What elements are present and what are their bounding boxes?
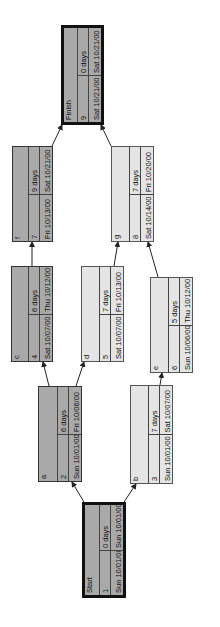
node-name: f <box>13 147 29 241</box>
node-name: Finish <box>64 28 78 122</box>
link-b-e <box>160 373 162 385</box>
node-finish-date: Thu 10/12/00 <box>40 267 52 314</box>
node-duration: 7 days <box>130 147 141 194</box>
node-id: 5 <box>100 314 111 361</box>
node-duration: 9 days <box>29 147 40 194</box>
node-id: 8 <box>130 194 141 241</box>
link-start-a <box>72 482 84 502</box>
node-finish-date: Sun 10/01/00 <box>111 505 123 550</box>
link-e-g <box>148 242 158 277</box>
node-id: 1 <box>100 550 111 595</box>
node-finish-date: Sat 10/21/00 <box>40 147 52 194</box>
node-id: 7 <box>29 194 40 241</box>
node-start-date: Sat 10/14/00 <box>141 194 153 241</box>
node-id: 6 <box>169 325 180 372</box>
node-d[interactable]: d 5 7 days Sat 10/07/00 Fri 10/13/00 <box>81 266 124 362</box>
node-id: 9 <box>78 75 89 122</box>
node-duration: 0 days <box>100 505 111 550</box>
node-b[interactable]: b 3 7 days Sun 10/01/00 Sat 10/07/00 <box>130 385 173 484</box>
node-a[interactable]: a 2 6 days Sun 10/01/00 Fri 10/06/00 <box>38 386 82 482</box>
node-duration: 7 days <box>100 267 111 314</box>
link-a-d <box>76 362 84 386</box>
node-name: g <box>112 147 130 241</box>
node-duration: 7 days <box>149 386 160 435</box>
node-finish[interactable]: Finish 9 0 days Sat 10/21/00 Sat 10/21/0… <box>61 25 104 125</box>
node-start-date: Sun 10/01/00 <box>111 550 123 595</box>
node-start-date: Sat 10/07/00 <box>111 314 123 361</box>
node-e[interactable]: e 6 5 days Sun 10/06/00 Thu 10/12/00 <box>150 277 193 373</box>
link-d-g <box>114 242 118 266</box>
node-name: b <box>131 386 149 483</box>
node-finish-date: Sat 10/21/00 <box>89 28 101 75</box>
node-name: a <box>39 387 58 481</box>
node-finish-date: Fri 10/06/00 <box>69 387 81 434</box>
node-g[interactable]: g 8 7 days Sat 10/14/00 Fri 10/20/00 <box>111 146 154 242</box>
link-g-finish <box>101 125 111 146</box>
node-name: c <box>12 267 29 361</box>
node-start-date: Sun 10/06/00 <box>180 325 192 372</box>
node-id: 3 <box>149 435 160 484</box>
node-finish-date: Sat 10/07/00 <box>160 386 172 435</box>
node-start-date: Sat 10/21/00 <box>89 75 101 122</box>
node-duration: 5 days <box>169 278 180 325</box>
node-id: 2 <box>58 434 69 481</box>
node-start-date: Sun 10/01/00 <box>69 434 81 481</box>
node-f[interactable]: f 7 9 days Fri 10/13/00 Sat 10/21/00 <box>12 146 53 242</box>
node-start-date: Sat 10/07/00 <box>40 314 52 361</box>
node-id: 4 <box>29 314 40 361</box>
node-name: e <box>151 278 169 372</box>
node-duration: 6 days <box>29 267 40 314</box>
node-duration: 0 days <box>78 28 89 75</box>
node-finish-date: Fri 10/13/00 <box>111 267 123 314</box>
node-start-date: Fri 10/13/00 <box>40 194 52 241</box>
node-name: d <box>82 267 100 361</box>
node-start[interactable]: Start 1 0 days Sun 10/01/00 Sun 10/01/00 <box>82 502 126 598</box>
link-start-b <box>124 484 136 502</box>
node-finish-date: Fri 10/20/00 <box>141 147 153 194</box>
node-c[interactable]: c 4 6 days Sat 10/07/00 Thu 10/12/00 <box>11 266 53 362</box>
node-duration: 6 days <box>58 387 69 434</box>
node-start-date: Sun 10/01/00 <box>160 435 172 484</box>
link-a-c <box>43 362 49 386</box>
link-f-finish <box>52 125 62 146</box>
node-name: Start <box>85 505 100 595</box>
node-finish-date: Thu 10/12/00 <box>180 278 192 325</box>
network-diagram: Start 1 0 days Sun 10/01/00 Sun 10/01/00… <box>0 0 220 627</box>
